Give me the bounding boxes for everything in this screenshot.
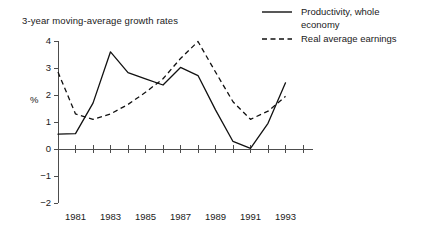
x-tick-label: 1985 xyxy=(135,211,156,222)
x-tick-label: 1981 xyxy=(65,211,86,222)
y-tick-label: 4 xyxy=(46,35,51,46)
y-tick-label: 3 xyxy=(46,62,51,73)
y-axis-label: % xyxy=(30,94,39,105)
data-series-group xyxy=(58,42,286,149)
x-axis: 1981198319851987198919911993 xyxy=(58,145,313,222)
x-tick-label: 1983 xyxy=(100,211,121,222)
y-tick-label: −2 xyxy=(40,197,51,208)
y-tick-label: −1 xyxy=(40,170,51,181)
y-tick-label: 1 xyxy=(46,116,51,127)
y-tick-label: 2 xyxy=(46,89,51,100)
x-tick-label: 1993 xyxy=(275,211,296,222)
x-tick-label: 1989 xyxy=(205,211,226,222)
x-tick-label: 1991 xyxy=(240,211,261,222)
chart-figure: 3-year moving-average growth rates Produ… xyxy=(0,0,423,237)
series-line-solid xyxy=(58,52,286,149)
y-tick-label: 0 xyxy=(46,143,51,154)
chart-plot-area: −2−101234 1981198319851987198919911993 % xyxy=(0,0,423,237)
x-tick-label: 1987 xyxy=(170,211,191,222)
series-line-dashed xyxy=(58,42,286,120)
y-axis: −2−101234 xyxy=(40,35,58,208)
